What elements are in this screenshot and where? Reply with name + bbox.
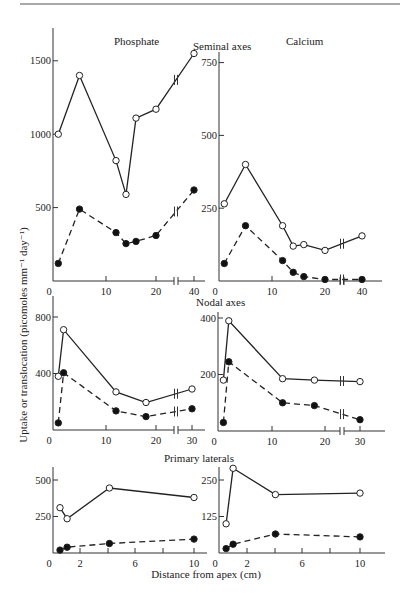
filled-circle-marker: [57, 547, 63, 553]
filled-circle-marker: [301, 273, 307, 279]
filled-circle-marker: [357, 534, 363, 540]
x-tick-label: 20: [320, 436, 331, 447]
x-tick-label: 30: [355, 436, 366, 447]
series-line-translocation: [58, 190, 194, 263]
x-tick-label: 2: [77, 558, 82, 569]
column-title-calcium: Calcium: [286, 35, 324, 47]
filled-circle-marker: [272, 531, 278, 537]
y-tick-label: 500: [201, 130, 217, 141]
series-line-uptake: [224, 165, 362, 251]
x-tick-label: 10: [101, 435, 112, 446]
open-circle-marker: [113, 157, 119, 163]
filled-circle-marker: [106, 540, 112, 546]
open-circle-marker: [189, 386, 195, 392]
open-circle-marker: [64, 516, 70, 522]
open-circle-marker: [279, 223, 285, 229]
filled-circle-marker: [76, 206, 82, 212]
filled-circle-marker: [279, 257, 285, 263]
open-circle-marker: [76, 72, 82, 78]
filled-circle-marker: [113, 229, 119, 235]
filled-circle-marker: [279, 400, 285, 406]
open-circle-marker: [113, 389, 119, 395]
open-circle-marker: [153, 106, 159, 112]
panel-phosphate-nodal: 4008000102030: [35, 296, 205, 446]
row-title-nodal: Nodal axes: [196, 296, 245, 308]
x-tick-label: 6: [299, 558, 304, 569]
panel-calcium-laterals: 12525002610: [201, 465, 385, 569]
x-tick-label: 2: [244, 558, 249, 569]
open-circle-marker: [221, 201, 227, 207]
x-tick-label: 10: [189, 558, 200, 569]
filled-circle-marker: [133, 238, 139, 244]
y-tick-label: 400: [35, 368, 51, 379]
open-circle-marker: [133, 115, 139, 121]
filled-circle-marker: [191, 187, 197, 193]
filled-circle-marker: [223, 545, 229, 551]
open-circle-marker: [57, 505, 63, 511]
series-line-uptake: [58, 330, 192, 403]
filled-circle-marker: [230, 541, 236, 547]
x-tick-label: 0: [46, 286, 51, 297]
open-circle-marker: [357, 490, 363, 496]
filled-circle-marker: [60, 370, 66, 376]
x-tick-label: 10: [101, 286, 112, 297]
open-circle-marker: [143, 399, 149, 405]
filled-circle-marker: [290, 269, 296, 275]
open-circle-marker: [223, 521, 229, 527]
filled-circle-marker: [322, 276, 328, 282]
panel-phosphate-seminal: 500100015000102040: [30, 28, 205, 297]
open-circle-marker: [123, 191, 129, 197]
row-title-seminal: Seminal axes: [193, 40, 251, 52]
filled-circle-marker: [113, 408, 119, 414]
panel-calcium-nodal: 2004000102030: [200, 312, 385, 447]
open-circle-marker: [106, 485, 112, 491]
open-circle-marker: [311, 377, 317, 383]
y-tick-label: 125: [201, 511, 217, 522]
x-tick-label: 10: [267, 436, 278, 447]
y-tick-label: 500: [35, 202, 51, 213]
open-circle-marker: [226, 318, 232, 324]
x-axis-title: Distance from apex (cm): [151, 568, 261, 581]
x-tick-label: 0: [212, 286, 217, 297]
x-tick-label: 0: [211, 436, 216, 447]
open-circle-marker: [230, 465, 236, 471]
y-tick-label: 250: [201, 475, 217, 486]
y-tick-label: 200: [200, 369, 216, 380]
row-title-laterals: Primary laterals: [164, 452, 234, 464]
x-tick-label: 40: [357, 286, 368, 297]
filled-circle-marker: [220, 419, 226, 425]
x-tick-label: 0: [212, 558, 217, 569]
x-tick-label: 20: [151, 435, 162, 446]
filled-circle-marker: [359, 276, 365, 282]
filled-circle-marker: [55, 420, 61, 426]
x-tick-label: 6: [132, 558, 137, 569]
series-line-translocation: [58, 373, 192, 423]
open-circle-marker: [55, 131, 61, 137]
y-tick-label: 500: [35, 475, 51, 486]
series-line-uptake: [60, 488, 194, 519]
filled-circle-marker: [311, 402, 317, 408]
filled-circle-marker: [221, 260, 227, 266]
y-tick-label: 750: [201, 57, 217, 68]
filled-circle-marker: [357, 417, 363, 423]
filled-circle-marker: [226, 359, 232, 365]
open-circle-marker: [357, 378, 363, 384]
series-line-uptake: [223, 321, 360, 382]
column-title-phosphate: Phosphate: [114, 35, 159, 47]
open-circle-marker: [191, 494, 197, 500]
panel-phosphate-laterals: 25050002610: [35, 467, 207, 569]
open-circle-marker: [301, 241, 307, 247]
open-circle-marker: [290, 243, 296, 249]
x-tick-label: 10: [267, 286, 278, 297]
open-circle-marker: [272, 491, 278, 497]
x-tick-label: 20: [320, 286, 331, 297]
y-tick-label: 1500: [30, 55, 51, 66]
y-tick-label: 250: [35, 511, 51, 522]
y-tick-label: 250: [201, 203, 217, 214]
open-circle-marker: [60, 327, 66, 333]
filled-circle-marker: [242, 223, 248, 229]
y-tick-label: 800: [35, 312, 51, 323]
open-circle-marker: [279, 376, 285, 382]
x-tick-label: 0: [46, 558, 51, 569]
x-tick-label: 30: [187, 435, 198, 446]
